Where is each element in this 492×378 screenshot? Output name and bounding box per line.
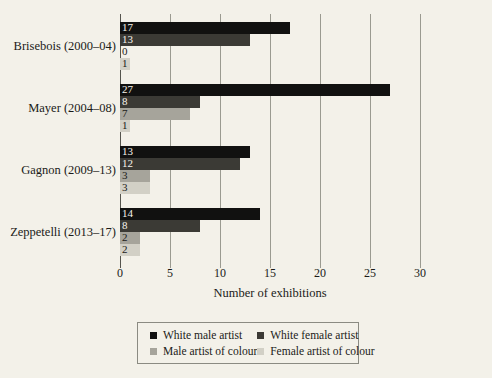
legend-item[interactable]: Female artist of colour — [257, 345, 374, 358]
y-axis-label-0: Brisebois (2000–04) — [0, 39, 116, 53]
bar-row: 7 — [120, 108, 420, 120]
bar-row: 3 — [120, 182, 420, 194]
legend-swatch-icon — [150, 348, 157, 355]
bar[interactable] — [120, 146, 250, 158]
x-tick-20: 20 — [314, 266, 326, 280]
legend-label: Male artist of colour — [163, 345, 257, 358]
bar[interactable] — [120, 108, 190, 120]
bar-row: 1 — [120, 58, 420, 70]
bar-row: 2 — [120, 232, 420, 244]
plot-area: 1713012787113123314822 — [120, 14, 420, 262]
x-tick-25: 25 — [364, 266, 376, 280]
gridline-30 — [420, 14, 421, 268]
y-axis-category-labels: Brisebois (2000–04)Mayer (2004–08)Gagnon… — [0, 14, 116, 262]
bar-group: 27871 — [120, 84, 420, 132]
x-tick-5: 5 — [167, 266, 173, 280]
bar-row: 27 — [120, 84, 420, 96]
bar-group: 14822 — [120, 208, 420, 256]
legend-grid: White male artistWhite female artistMale… — [138, 323, 358, 363]
x-tick-15: 15 — [264, 266, 276, 280]
bar-row: 8 — [120, 220, 420, 232]
bar-value-label: 1 — [122, 57, 128, 70]
x-tick-30: 30 — [414, 266, 426, 280]
bar[interactable] — [120, 208, 260, 220]
bar-row: 17 — [120, 22, 420, 34]
bar-row: 13 — [120, 146, 420, 158]
legend-swatch-icon — [257, 332, 264, 339]
bar[interactable] — [120, 158, 240, 170]
bar-row: 3 — [120, 170, 420, 182]
legend-swatch-icon — [257, 348, 264, 355]
bar-row: 12 — [120, 158, 420, 170]
bar-value-label: 1 — [122, 119, 128, 132]
y-axis-label-1: Mayer (2004–08) — [0, 101, 116, 115]
bar[interactable] — [120, 22, 290, 34]
bar-row: 0 — [120, 46, 420, 58]
x-axis-title: Number of exhibitions — [120, 286, 420, 301]
bar-row: 13 — [120, 34, 420, 46]
bar-row: 2 — [120, 244, 420, 256]
bar[interactable] — [120, 96, 200, 108]
legend-label: White male artist — [163, 329, 242, 342]
legend-label: Female artist of colour — [270, 345, 374, 358]
bar-value-label: 2 — [122, 243, 128, 256]
bar[interactable] — [120, 34, 250, 46]
chart-legend: White male artistWhite female artistMale… — [137, 322, 359, 364]
bar-row: 1 — [120, 120, 420, 132]
bar-row: 14 — [120, 208, 420, 220]
x-axis-tick-labels: 051015202530 — [120, 262, 420, 284]
legend-item[interactable]: White male artist — [150, 329, 257, 342]
legend-label: White female artist — [270, 329, 358, 342]
bar-chart-figure: Brisebois (2000–04)Mayer (2004–08)Gagnon… — [0, 0, 492, 378]
bar-group: 131233 — [120, 146, 420, 194]
bar-group: 171301 — [120, 22, 420, 70]
legend-item[interactable]: Male artist of colour — [150, 345, 257, 358]
legend-swatch-icon — [150, 332, 157, 339]
bar-value-label: 3 — [122, 181, 128, 194]
bar[interactable] — [120, 84, 390, 96]
y-axis-label-2: Gagnon (2009–13) — [0, 163, 116, 177]
bar-row: 8 — [120, 96, 420, 108]
legend-item[interactable]: White female artist — [257, 329, 374, 342]
x-tick-0: 0 — [117, 266, 123, 280]
y-axis-label-3: Zeppetelli (2013–17) — [0, 225, 116, 239]
x-tick-10: 10 — [214, 266, 226, 280]
bar[interactable] — [120, 220, 200, 232]
